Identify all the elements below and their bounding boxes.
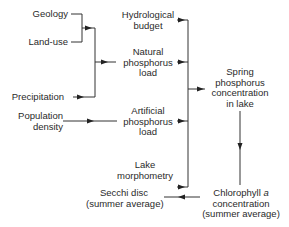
node-label-line: Lake: [112, 160, 178, 171]
node-precipitation: Precipitation: [12, 92, 64, 103]
node-label: Precipitation: [12, 91, 64, 102]
node-geology: Geology: [33, 9, 68, 20]
node-label-line: load: [118, 68, 178, 79]
node-label-line: density: [18, 122, 63, 133]
node-label-line: (summer average): [200, 209, 282, 220]
node-label-line: in lake: [203, 99, 277, 110]
node-label-line: morphometry: [112, 171, 178, 182]
node-label-line: Natural: [118, 47, 178, 58]
node-natural-phosphorus-load: Natural phosphorus load: [118, 47, 178, 79]
node-lake-morphometry: Lake morphometry: [112, 160, 178, 181]
chlorophyll-prefix: Chlorophyll: [213, 187, 263, 198]
node-artificial-phosphorus-load: Artificial phosphorus load: [118, 106, 178, 138]
node-label-line: Secchi disc: [86, 188, 162, 199]
node-secchi-disc: Secchi disc (summer average): [86, 188, 162, 209]
node-label-line: concentration: [203, 88, 277, 99]
node-label-line: Chlorophyll a: [200, 188, 282, 199]
node-label: Geology: [33, 8, 68, 19]
node-population-density: Population density: [18, 111, 63, 132]
node-label-line: Spring: [203, 67, 277, 78]
node-label-line: Hydrological: [118, 10, 178, 21]
node-label-line: Artificial: [118, 106, 178, 117]
node-label-line: Population: [18, 111, 63, 122]
node-label: Land-use: [28, 36, 68, 47]
node-label-line: budget: [118, 21, 178, 32]
node-chlorophyll-a-concentration: Chlorophyll a concentration (summer aver…: [200, 188, 282, 220]
node-label-line: load: [118, 127, 178, 138]
chlorophyll-a-italic: a: [263, 187, 268, 198]
node-label-line: (summer average): [86, 199, 162, 210]
node-spring-phosphorus-concentration: Spring phosphorus concentration in lake: [203, 67, 277, 109]
node-hydrological-budget: Hydrological budget: [118, 10, 178, 31]
node-land-use: Land-use: [28, 37, 68, 48]
